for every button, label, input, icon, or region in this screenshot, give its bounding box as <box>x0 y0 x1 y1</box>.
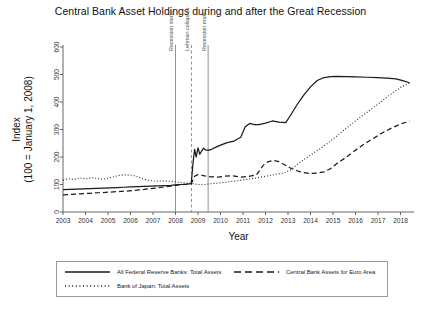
annotation-label: Recession starts <box>168 11 174 51</box>
legend-key-dashed-icon <box>233 268 280 276</box>
x-tick-label: 2012 <box>258 217 273 224</box>
x-tick-label: 2004 <box>78 217 93 224</box>
y-axis-title-line1: Index <box>11 117 22 141</box>
x-tick-label: 2015 <box>326 217 341 224</box>
y-tick-label: 200 <box>53 151 60 162</box>
series-line <box>63 83 410 184</box>
legend-key-solid-icon <box>64 268 111 276</box>
series-line <box>63 76 410 189</box>
annotation-label: Recession ends <box>201 12 207 51</box>
x-tick-label: 2007 <box>146 217 161 224</box>
legend-entry-euro: Central Bank Assets for Euro Area <box>233 268 375 276</box>
series-line <box>63 121 410 195</box>
legend-entry-japan: Bank of Japan: Total Assets <box>64 282 189 290</box>
y-tick-label: 300 <box>53 124 60 135</box>
legend-entry-fed: All Federal Reserve Banks: Total Assets <box>64 268 221 276</box>
x-tick-label: 2018 <box>393 217 408 224</box>
x-tick-label: 2017 <box>371 217 386 224</box>
x-tick-label: 2016 <box>348 217 363 224</box>
y-tick-label: 400 <box>53 96 60 107</box>
chart-legend: All Federal Reserve Banks: Total Assets … <box>56 261 388 297</box>
y-tick-label: 600 <box>53 41 60 52</box>
legend-label-japan: Bank of Japan: Total Assets <box>117 283 189 289</box>
x-axis-title: Year <box>228 231 249 242</box>
y-tick-label: 0 <box>53 210 60 214</box>
x-tick-label: 2014 <box>303 217 318 224</box>
x-tick-label: 2008 <box>168 217 183 224</box>
x-tick-label: 2006 <box>123 217 138 224</box>
annotation-label: Lehman collapses <box>184 7 190 51</box>
x-tick-label: 2013 <box>281 217 296 224</box>
legend-key-dotted-icon <box>64 282 111 290</box>
x-tick-label: 2003 <box>56 217 71 224</box>
x-tick-label: 2009 <box>191 217 206 224</box>
y-axis-title-line2: (100 = January 1, 2008) <box>23 76 34 182</box>
x-tick-label: 2011 <box>236 217 251 224</box>
x-tick-label: 2005 <box>101 217 116 224</box>
y-tick-label: 100 <box>53 179 60 190</box>
x-tick-label: 2010 <box>213 217 228 224</box>
y-tick-label: 500 <box>53 69 60 80</box>
legend-label-fed: All Federal Reserve Banks: Total Assets <box>117 269 221 275</box>
legend-label-euro: Central Bank Assets for Euro Area <box>286 269 375 275</box>
chart-figure: Central Bank Asset Holdings during and a… <box>0 0 421 311</box>
